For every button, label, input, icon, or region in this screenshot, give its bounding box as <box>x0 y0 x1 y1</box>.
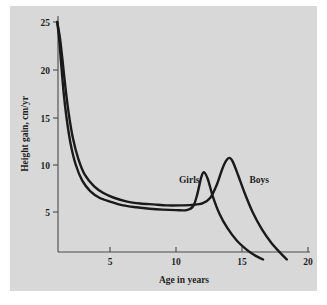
series-label-boys: Boys <box>249 175 269 185</box>
y-axis-ticks <box>53 22 58 212</box>
x-tick-label-20: 20 <box>303 257 313 267</box>
x-axis-title: Age in years <box>159 275 209 285</box>
y-tick-label-25: 25 <box>41 18 51 28</box>
x-tick-label-10: 10 <box>171 257 181 267</box>
curve-girls <box>57 22 263 260</box>
series-label-girls: Girls <box>179 175 200 185</box>
y-tick-label-10: 10 <box>41 161 51 171</box>
x-tick-label-15: 15 <box>237 257 247 267</box>
y-tick-label-15: 15 <box>41 114 51 124</box>
y-tick-label-5: 5 <box>45 208 50 218</box>
x-tick-label-5: 5 <box>108 257 113 267</box>
growth-velocity-chart: 25 20 15 10 5 5 10 15 20 Age in years He… <box>10 6 317 291</box>
figure-panel: 25 20 15 10 5 5 10 15 20 Age in years He… <box>10 6 317 291</box>
y-axis-title: Height gain, cm/yr <box>20 95 30 172</box>
y-tick-label-20: 20 <box>41 66 51 76</box>
curve-boys <box>57 22 287 260</box>
